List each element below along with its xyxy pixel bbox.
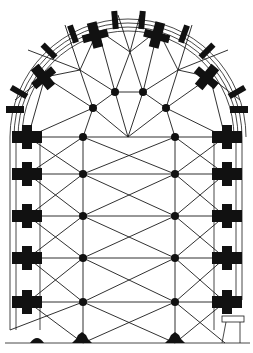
wall-piers [12,125,242,314]
nave-columns [42,74,213,306]
diagonal-ribs [10,137,225,343]
stair-detail [222,316,244,343]
cathedral-floor-plan [0,0,253,353]
